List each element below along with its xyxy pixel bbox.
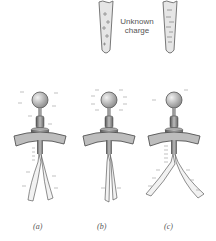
- leaf-left: [105, 154, 110, 202]
- knob-icon: [32, 92, 48, 108]
- rod-caption: Unknown charge: [117, 17, 157, 35]
- leaf-right: [110, 154, 117, 200]
- electroscope-b: [77, 88, 141, 216]
- panel-label-a: (a): [33, 222, 42, 231]
- knob-icon: [101, 92, 117, 108]
- positive-rod: [97, 0, 115, 56]
- leaf-left: [146, 154, 175, 196]
- panel-label-b: (b): [97, 222, 106, 231]
- leaf-right: [41, 154, 53, 200]
- electroscope-c: [142, 88, 212, 216]
- negative-rod: [161, 0, 179, 56]
- knob-icon: [166, 92, 182, 108]
- electroscope-a: [8, 88, 72, 216]
- leaf-left: [28, 154, 41, 201]
- leaf-right: [175, 154, 204, 198]
- rod-caption-line1: Unknown: [117, 17, 157, 26]
- rod-caption-line2: charge: [117, 26, 157, 35]
- panel-label-c: (c): [164, 222, 173, 231]
